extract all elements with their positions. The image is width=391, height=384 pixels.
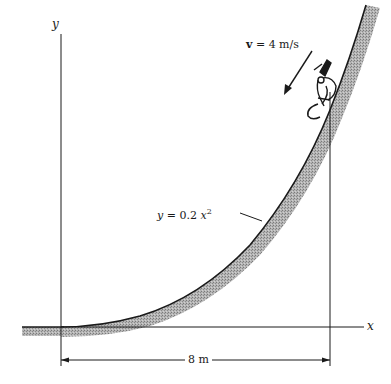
curve-equation-label: y = 0.2 x2 [157,208,212,221]
equation-leader [240,213,262,221]
parabolic-track-diagram [0,0,391,384]
velocity-arrow-icon [284,51,312,95]
equation-exponent: 2 [207,207,212,216]
velocity-label: v = 4 m/s [246,39,299,50]
velocity-value: 4 m/s [269,38,299,51]
parabola-track [61,5,380,337]
equation-middle: = 0.2 [163,209,200,222]
x-axis-label: x [367,320,374,332]
y-axis-label: y [52,18,59,30]
velocity-equals: = [252,38,268,51]
dimension-label: 8 m [185,354,212,365]
ground-hatch [22,327,64,336]
